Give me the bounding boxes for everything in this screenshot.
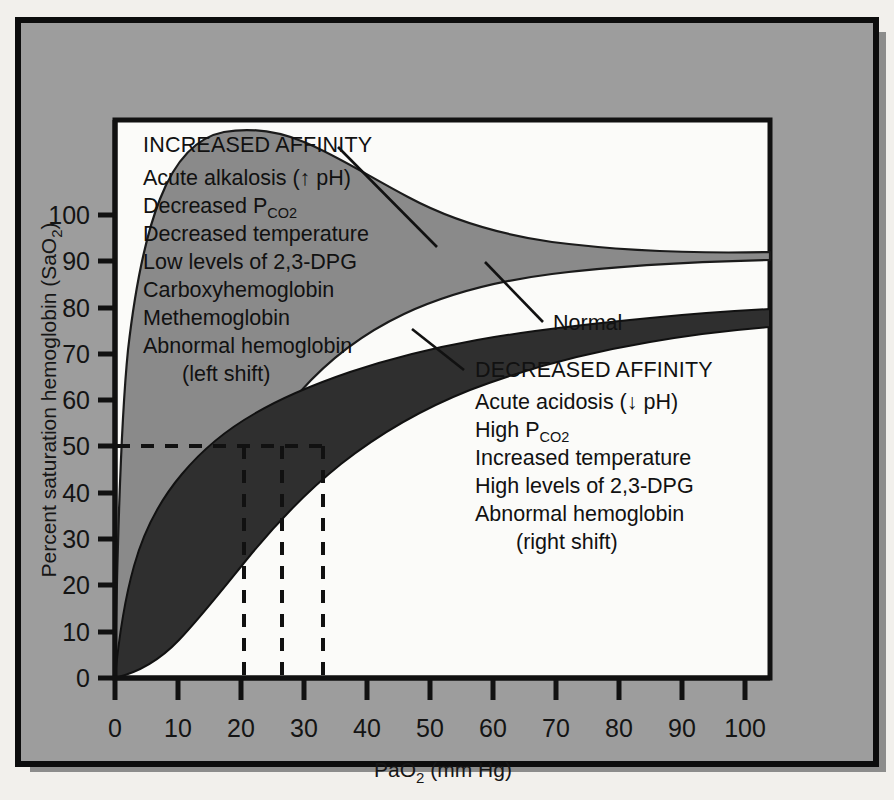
x-tick-label: 60 (479, 714, 507, 742)
y-tick-label: 30 (62, 525, 90, 553)
decreased-affinity-heading: DECREASED AFFINITY (475, 358, 713, 382)
decreased-affinity-item: High levels of 2,3-DPG (475, 474, 694, 498)
y-tick-label: 80 (62, 294, 90, 322)
y-tick-label: 50 (62, 432, 90, 460)
x-axis-title-pre: PaO (374, 758, 416, 781)
y-axis-title-pre: Percent saturation hemoglobin (SaO (37, 238, 60, 578)
increased-affinity-item: Methemoglobin (143, 306, 290, 330)
increased-affinity-item: Abnormal hemoglobin (143, 334, 352, 358)
x-tick-label: 100 (724, 714, 766, 742)
x-tick-label: 90 (668, 714, 696, 742)
x-tick-label: 80 (605, 714, 633, 742)
x-tick-label: 30 (290, 714, 318, 742)
x-tick-label: 0 (108, 714, 122, 742)
y-tick-label: 40 (62, 479, 90, 507)
x-axis-title-sub: 2 (416, 769, 424, 786)
decreased-affinity-footer: (right shift) (516, 530, 618, 554)
increased-affinity-footer: (left shift) (182, 362, 270, 386)
x-axis-title-post: (mm Hg) (424, 758, 512, 781)
increased-affinity-item: Decreased temperature (143, 222, 369, 246)
y-axis-title-post: ) (37, 222, 60, 229)
increased-affinity-item: Carboxyhemoglobin (143, 278, 334, 302)
oxyhemoglobin-dissociation-curve-figure: 100 90 80 70 60 50 40 30 20 10 0 0 10 20… (0, 0, 894, 800)
normal-curve-label: Normal (553, 311, 622, 335)
x-tick-label: 70 (542, 714, 570, 742)
increased-affinity-item: Acute alkalosis (↑ pH) (143, 166, 351, 190)
decreased-affinity-item: Increased temperature (475, 446, 691, 470)
y-tick-label: 90 (62, 247, 90, 275)
decreased-affinity-item: Abnormal hemoglobin (475, 502, 684, 526)
y-tick-label: 60 (62, 386, 90, 414)
increased-affinity-item: Low levels of 2,3-DPG (143, 250, 357, 274)
x-tick-label: 20 (227, 714, 255, 742)
decreased-affinity-item: Acute acidosis (↓ pH) (475, 390, 678, 414)
x-tick-label: 10 (164, 714, 192, 742)
y-tick-label: 0 (76, 664, 90, 692)
y-axis-title-sub: 2 (48, 229, 65, 237)
annotation-increased-affinity: INCREASED AFFINITY Acute alkalosis (↑ pH… (143, 133, 372, 386)
x-tick-label: 50 (416, 714, 444, 742)
figure-root: 100 90 80 70 60 50 40 30 20 10 0 0 10 20… (0, 0, 894, 800)
y-tick-label: 70 (62, 340, 90, 368)
y-tick-label: 20 (62, 571, 90, 599)
y-tick-label: 10 (62, 618, 90, 646)
x-tick-label: 40 (353, 714, 381, 742)
increased-affinity-heading: INCREASED AFFINITY (143, 133, 372, 157)
